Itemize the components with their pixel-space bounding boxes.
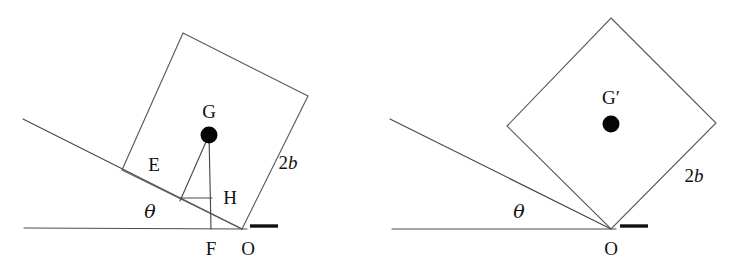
left-center-of-gravity-dot: [201, 127, 218, 144]
left-panel: G E H θ F O 2b: [23, 33, 308, 259]
left-cg-label: G: [202, 101, 216, 122]
left-side-length-label: 2b: [279, 152, 298, 173]
left-cg-perpendicular-line: [180, 135, 209, 201]
diagram-canvas: G E H θ F O 2b G′ θ O 2b: [0, 0, 735, 268]
right-side-length-label: 2b: [685, 165, 704, 186]
right-panel: G′ θ O 2b: [390, 18, 716, 259]
left-edge-label-h: H: [223, 187, 237, 208]
right-angle-label-theta: θ: [513, 200, 525, 222]
right-cg-label: G′: [602, 87, 620, 108]
left-pivot-label-o: O: [241, 238, 255, 259]
left-angle-label-theta: θ: [144, 200, 156, 222]
figure-container: G E H θ F O 2b G′ θ O 2b: [0, 0, 735, 268]
left-cg-vertical-line: [209, 135, 211, 229]
left-foot-label-f: F: [206, 238, 217, 259]
right-center-of-gravity-dot: [603, 116, 620, 133]
right-incline-line: [390, 119, 611, 229]
right-pivot-label-o: O: [604, 238, 618, 259]
left-ground-line: [24, 228, 247, 229]
left-edge-label-e: E: [148, 154, 160, 175]
